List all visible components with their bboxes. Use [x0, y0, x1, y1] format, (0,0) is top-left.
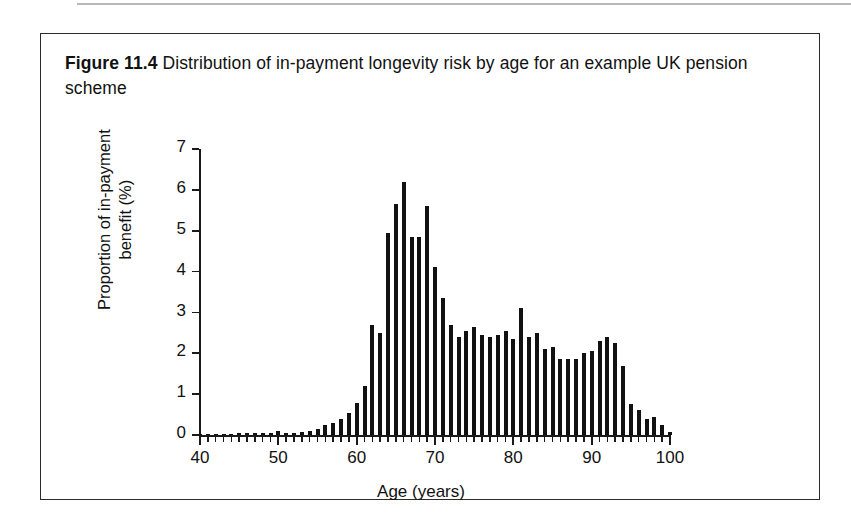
bar-age-93 [613, 343, 617, 435]
bar-age-41 [206, 434, 210, 435]
bar-age-47 [253, 433, 257, 435]
bar-age-85 [551, 347, 555, 435]
bar-age-79 [504, 331, 508, 435]
bar-age-43 [222, 434, 226, 435]
bar-age-71 [441, 298, 445, 435]
bar-age-63 [378, 333, 382, 435]
bar-age-48 [261, 433, 265, 435]
bar-age-78 [496, 335, 500, 435]
bar-age-58 [339, 419, 343, 435]
bar-age-67 [410, 237, 414, 435]
bar-age-65 [394, 204, 398, 435]
bar-age-60 [355, 403, 359, 435]
figure-frame: Figure 11.4 Distribution of in-payment l… [40, 33, 820, 500]
bar-age-74 [464, 331, 468, 435]
bar-age-90 [590, 351, 594, 435]
bar-age-56 [323, 425, 327, 435]
bar-age-92 [605, 337, 609, 435]
bar-age-87 [566, 359, 570, 435]
bar-age-62 [370, 325, 374, 435]
bar-age-95 [629, 404, 633, 435]
bar-age-77 [488, 337, 492, 435]
bar-age-94 [621, 366, 625, 435]
bar-age-89 [582, 353, 586, 435]
bar-age-46 [245, 433, 249, 435]
bar-age-40 [198, 434, 202, 435]
bar-age-42 [214, 434, 218, 435]
bar-age-59 [347, 413, 351, 435]
bar-age-72 [449, 325, 453, 435]
bar-age-97 [645, 419, 649, 435]
bar-age-83 [535, 333, 539, 435]
bar-age-49 [269, 433, 273, 435]
bar-age-68 [417, 237, 421, 435]
bar-age-76 [480, 335, 484, 435]
bar-age-75 [472, 327, 476, 435]
bar-series [41, 34, 821, 501]
bar-age-96 [637, 410, 641, 435]
bar-age-99 [660, 425, 664, 435]
bar-age-44 [229, 434, 233, 435]
bar-age-69 [425, 206, 429, 435]
bar-age-86 [558, 359, 562, 435]
bar-age-91 [598, 341, 602, 435]
bar-age-82 [527, 337, 531, 435]
bar-age-52 [292, 433, 296, 435]
bar-age-54 [308, 431, 312, 435]
bar-age-70 [433, 267, 437, 435]
bar-age-51 [284, 433, 288, 435]
bar-age-64 [386, 233, 390, 435]
bar-age-66 [402, 182, 406, 435]
bar-age-84 [543, 349, 547, 435]
bar-age-61 [363, 386, 367, 435]
bar-age-80 [511, 339, 515, 435]
bar-age-53 [300, 432, 304, 435]
bar-age-88 [574, 359, 578, 435]
page-top-rule [77, 3, 851, 5]
bar-age-98 [652, 417, 656, 435]
bar-age-57 [331, 423, 335, 435]
bar-age-45 [237, 433, 241, 435]
chart-plot-area: Proportion of in-payment benefit (%) Age… [41, 34, 821, 501]
bar-age-50 [276, 431, 280, 435]
bar-age-100 [668, 432, 672, 435]
bar-age-73 [457, 337, 461, 435]
bar-age-55 [316, 429, 320, 435]
bar-age-81 [519, 308, 523, 435]
